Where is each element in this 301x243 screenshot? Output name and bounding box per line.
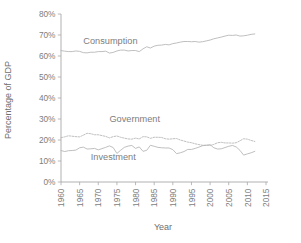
series-label-government: Government: [109, 114, 160, 124]
x-axis: 1960196519701975198019851990199520002005…: [56, 182, 271, 207]
x-tick-label: 1975: [112, 188, 122, 207]
x-tick-label: 1970: [93, 188, 103, 207]
y-tick-label: 60%: [39, 51, 56, 61]
y-tick-label: 10%: [39, 156, 56, 166]
x-tick-label: 2000: [205, 188, 215, 207]
y-tick-label: 0%: [44, 177, 57, 187]
x-tick-label: 1980: [131, 188, 141, 207]
y-tick-label: 70%: [39, 30, 56, 40]
y-axis-title: Percentage of GDP: [3, 61, 13, 139]
series-line-government: [61, 133, 255, 145]
y-tick-label: 80%: [39, 9, 56, 19]
x-tick-label: 1995: [187, 188, 197, 207]
series-lines: [61, 34, 255, 155]
x-tick-label: 1960: [56, 188, 66, 207]
x-axis-title: Year: [154, 222, 172, 232]
x-tick-label: 1990: [168, 188, 178, 207]
series-label-consumption: Consumption: [83, 36, 137, 46]
x-tick-label: 2015: [261, 188, 271, 207]
y-tick-label: 30%: [39, 114, 56, 124]
series-labels: ConsumptionGovernmentInvestment: [83, 36, 160, 162]
y-tick-label: 50%: [39, 72, 56, 82]
y-axis: 0%10%20%30%40%50%60%70%80%: [39, 9, 61, 187]
y-tick-label: 40%: [39, 93, 56, 103]
x-tick-label: 1985: [149, 188, 159, 207]
series-label-investment: Investment: [91, 152, 136, 162]
x-tick-label: 2005: [224, 188, 234, 207]
chart-container: 0%10%20%30%40%50%60%70%80% 1960196519701…: [0, 0, 301, 243]
gdp-components-line-chart: 0%10%20%30%40%50%60%70%80% 1960196519701…: [0, 0, 301, 243]
x-tick-label: 2010: [243, 188, 253, 207]
x-tick-label: 1965: [75, 188, 85, 207]
y-tick-label: 20%: [39, 135, 56, 145]
